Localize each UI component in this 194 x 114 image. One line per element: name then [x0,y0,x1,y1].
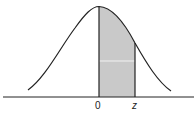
axis-label-zero: 0 [95,101,101,111]
normal-curve-diagram [0,0,194,114]
shaded-area [99,7,135,98]
axis-label-z: z [132,101,137,111]
